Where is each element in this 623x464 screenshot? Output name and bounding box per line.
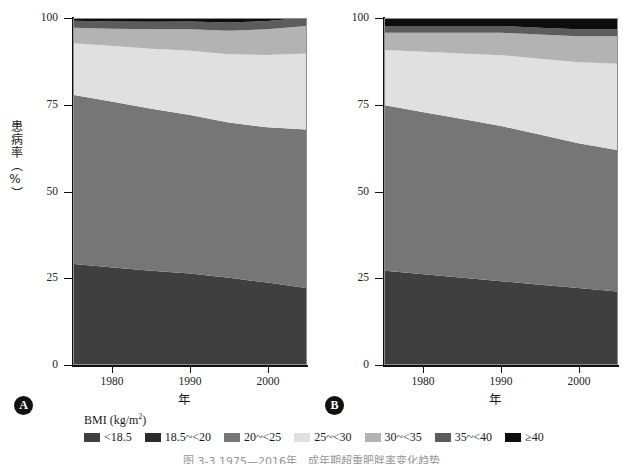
legend-items: <18.518.5~<2020~<2525~<3030~<3535~<40≥40 xyxy=(84,430,557,445)
chart-panel-b: 0255075100 198019902000 年 xyxy=(311,0,623,405)
legend-swatch-icon xyxy=(294,433,310,442)
legend-item-label: 20~<25 xyxy=(244,430,281,445)
x-axis-tick xyxy=(579,366,580,373)
legend-item-label: 25~<30 xyxy=(314,430,351,445)
y-axis-tick xyxy=(64,278,72,279)
legend-swatch-icon xyxy=(145,433,161,442)
legend-title-main: BMI (kg/m xyxy=(84,413,138,427)
legend-item-label: 30~<35 xyxy=(385,430,422,445)
x-axis-tick-label: 1980 xyxy=(82,375,142,387)
y-axis-tick-label: 100 xyxy=(0,12,58,23)
legend-item-label: 35~<40 xyxy=(455,430,492,445)
figure-caption: 图 3-3 1975—2016年 成年期超重肥胖率变化趋势 xyxy=(0,452,623,464)
legend-item-label: <18.5 xyxy=(104,430,132,445)
y-axis-tick-labels-b: 0255075100 xyxy=(311,0,375,366)
y-axis-tick xyxy=(64,192,72,193)
legend-swatch-icon xyxy=(224,433,240,442)
legend-item: <18.5 xyxy=(84,430,132,445)
y-axis-tick xyxy=(375,365,383,366)
legend-swatch-icon xyxy=(84,433,100,442)
y-axis-tick-label: 0 xyxy=(0,359,58,370)
chart-panel-a: 患病率（%） 0255075100 198019902000 年 xyxy=(0,0,312,405)
x-axis-tick xyxy=(112,366,113,373)
legend-swatch-icon xyxy=(505,433,521,442)
y-axis-tick-label: 75 xyxy=(309,99,369,110)
figure-container: 患病率（%） 0255075100 198019902000 年 A 02550… xyxy=(0,0,623,464)
legend-item: 18.5~<20 xyxy=(145,430,211,445)
plot-area-b xyxy=(384,18,618,365)
stacked-area-svg-a xyxy=(74,19,306,364)
chart-legend: BMI (kg/m2) <18.518.5~<2020~<2525~<3030~… xyxy=(0,412,623,452)
y-axis-tick-labels-a: 0255075100 xyxy=(0,0,64,366)
legend-item: 20~<25 xyxy=(224,430,281,445)
x-axis-tick-label: 1990 xyxy=(160,375,220,387)
legend-item: 25~<30 xyxy=(294,430,351,445)
x-axis-tick-label: 2000 xyxy=(549,375,609,387)
x-axis-tick-label: 1990 xyxy=(471,375,531,387)
y-axis-tick-label: 25 xyxy=(0,272,58,283)
y-axis-tick xyxy=(375,192,383,193)
legend-item: 35~<40 xyxy=(435,430,492,445)
x-axis-tick xyxy=(423,366,424,373)
legend-item-label: ≥40 xyxy=(525,430,544,445)
y-axis-tick xyxy=(64,105,72,106)
y-axis-tick-label: 0 xyxy=(309,359,369,370)
legend-item-label: 18.5~<20 xyxy=(165,430,211,445)
x-axis-title-a: 年 xyxy=(0,389,312,408)
y-axis-tick xyxy=(375,105,383,106)
legend-item: 30~<35 xyxy=(365,430,422,445)
legend-title-tail: ) xyxy=(142,413,146,427)
x-axis-tick xyxy=(268,366,269,373)
x-axis-tick xyxy=(501,366,502,373)
y-axis-tick xyxy=(375,18,383,19)
y-axis-tick xyxy=(64,18,72,19)
y-axis-tick-label: 75 xyxy=(0,99,58,110)
y-axis-tick xyxy=(64,365,72,366)
legend-swatch-icon xyxy=(435,433,451,442)
x-axis-title-b: 年 xyxy=(311,389,623,408)
stacked-area-svg-b xyxy=(385,19,617,364)
legend-title: BMI (kg/m2) xyxy=(84,412,146,428)
y-axis-tick xyxy=(375,278,383,279)
legend-swatch-icon xyxy=(365,433,381,442)
y-axis-tick-label: 50 xyxy=(0,186,58,197)
legend-item: ≥40 xyxy=(505,430,544,445)
plot-area-a xyxy=(73,18,307,365)
y-axis-tick-label: 100 xyxy=(309,12,369,23)
x-axis-tick-label: 2000 xyxy=(238,375,298,387)
y-axis-tick-label: 50 xyxy=(309,186,369,197)
x-axis-tick xyxy=(190,366,191,373)
y-axis-tick-label: 25 xyxy=(309,272,369,283)
x-axis-tick-label: 1980 xyxy=(393,375,453,387)
